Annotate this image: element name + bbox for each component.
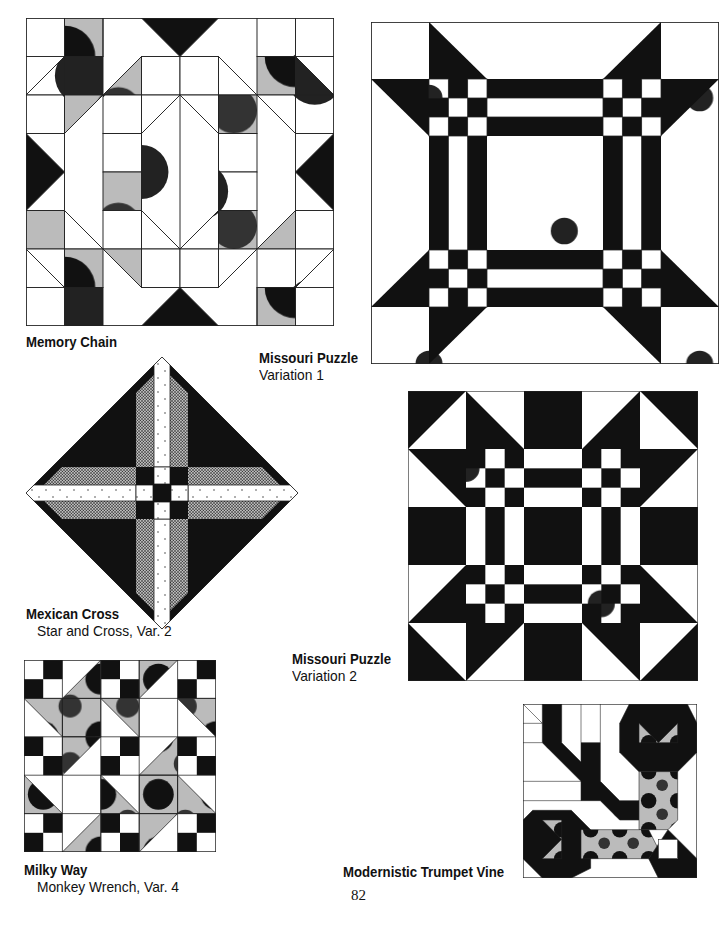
block-subtitle: Variation 2 [292, 668, 396, 685]
block-subtitle: Monkey Wrench, Var. 4 [24, 879, 179, 896]
missouri-puzzle-2-pattern [408, 391, 698, 681]
caption-mexican-cross: Mexican Cross Star and Cross, Var. 2 [26, 606, 184, 639]
caption-memory-chain: Memory Chain [26, 334, 129, 351]
block-title: Modernistic Trumpet Vine [343, 864, 504, 881]
missouri-puzzle-1-pattern [371, 22, 719, 364]
caption-milky-way: Milky Way Monkey Wrench, Var. 4 [24, 862, 193, 895]
caption-modernistic-trumpet-vine: Modernistic Trumpet Vine [343, 864, 526, 881]
quilt-block-missouri-puzzle-2 [408, 391, 698, 681]
block-subtitle: Star and Cross, Var. 2 [26, 623, 172, 640]
milky-way-pattern [24, 660, 216, 852]
quilt-block-missouri-puzzle-1 [371, 22, 719, 364]
quilt-block-modernistic-trumpet-vine [523, 704, 697, 878]
quilt-block-memory-chain [26, 18, 334, 326]
page-number: 82 [351, 887, 366, 904]
memory-chain-pattern [26, 18, 334, 326]
caption-missouri-puzzle-2: Missouri Puzzle Variation 2 [292, 651, 405, 684]
block-title: Milky Way [24, 862, 172, 879]
block-title: Mexican Cross [26, 606, 165, 623]
quilt-block-milky-way [24, 660, 216, 852]
block-title: Missouri Puzzle [292, 651, 391, 668]
mexican-cross-diamond [26, 357, 298, 629]
quilt-block-mexican-cross-detail [26, 357, 298, 629]
modernistic-trumpet-vine-pattern [523, 704, 697, 878]
block-title: Memory Chain [26, 334, 117, 351]
